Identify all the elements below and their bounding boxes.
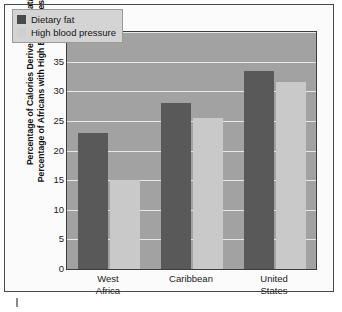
x-tick-label-line: West	[96, 273, 120, 285]
bar-west-africa-high-blood-pressure	[110, 180, 140, 269]
y-tick-label-35: 35	[38, 56, 64, 67]
bar-caribbean-high-blood-pressure	[193, 118, 223, 269]
y-tick-label-0: 0	[38, 263, 64, 274]
legend-label: Dietary fat	[31, 14, 74, 25]
x-tick-label-united-states: UnitedStates	[260, 273, 287, 297]
gridline-0	[67, 269, 316, 270]
bar-west-africa-dietary-fat	[78, 133, 108, 269]
bar-united-states-high-blood-pressure	[276, 82, 306, 269]
chart-legend: Dietary fatHigh blood pressure	[12, 9, 123, 43]
legend-item-dietary-fat: Dietary fat	[17, 13, 116, 26]
x-axis-tick-labels: WestAfricaCaribbeanUnitedStates	[66, 273, 317, 303]
x-tick-label-caribbean: Caribbean	[169, 273, 213, 285]
x-tick-label-line: Africa	[96, 285, 120, 297]
legend-item-high-blood-pressure: High blood pressure	[17, 26, 116, 39]
figure: Percentage of Calories Derived from Fat/…	[0, 0, 342, 312]
y-tick-label-5: 5	[38, 233, 64, 244]
y-tick-label-20: 20	[38, 145, 64, 156]
x-tick-label-line: Caribbean	[169, 273, 213, 285]
x-tick-label-west-africa: WestAfrica	[96, 273, 120, 297]
y-tick-label-25: 25	[38, 115, 64, 126]
y-tick-label-10: 10	[38, 204, 64, 215]
y-tick-label-15: 15	[38, 174, 64, 185]
bar-united-states-dietary-fat	[244, 71, 274, 269]
x-tick-label-line: States	[260, 285, 287, 297]
x-tick-label-line: United	[260, 273, 287, 285]
y-tick-label-30: 30	[38, 85, 64, 96]
bar-caribbean-dietary-fat	[161, 103, 191, 269]
legend-swatch-icon-dark	[17, 15, 26, 24]
legend-label: High blood pressure	[31, 27, 116, 38]
plot-area	[66, 31, 317, 270]
bottom-tick-mark	[16, 298, 18, 307]
legend-swatch-icon-light	[17, 28, 26, 37]
y-axis-tick-labels: 0510152025303540	[34, 31, 64, 270]
gridline-35	[67, 62, 316, 63]
